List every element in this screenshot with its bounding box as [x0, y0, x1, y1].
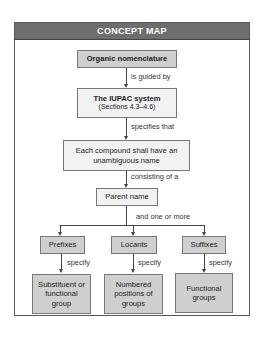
iupac-sections: (Sections 4.3–4.6) — [99, 103, 156, 112]
connector-line — [126, 118, 127, 137]
link-label-specify-suffixes: specify — [209, 258, 232, 267]
connector-line — [126, 171, 127, 185]
arrow-icon — [59, 269, 63, 273]
node-prefixes: Prefixes — [40, 236, 85, 254]
node-locants: Locants — [111, 236, 157, 254]
node-iupac-system: The IUPAC system (Sections 4.3–4.6) — [77, 88, 177, 118]
link-label-consisting: consisting of a — [131, 172, 178, 181]
iupac-title: The IUPAC system — [94, 94, 161, 103]
node-parent-name: Parent name — [96, 188, 158, 206]
node-numbered-positions: Numbered positions of groups — [104, 274, 163, 314]
link-label-guided: is guided by — [131, 72, 170, 81]
node-organic-nomenclature: Organic nomenclature — [77, 50, 177, 68]
node-each-compound: Each compound shall have an unambiguous … — [63, 140, 190, 171]
link-label-and-more: and one or more — [136, 212, 190, 221]
branch-line — [60, 225, 204, 226]
node-substituent: Substituent or functional group — [32, 274, 91, 314]
connector-line — [133, 254, 134, 270]
link-label-specifies: specifies that — [131, 122, 174, 131]
link-label-specify-locants: specify — [138, 258, 161, 267]
connector-line — [126, 206, 127, 226]
arrow-icon — [131, 269, 135, 273]
node-functional-groups: Functional groups — [175, 273, 233, 313]
concept-map-header: CONCEPT MAP — [15, 23, 249, 40]
node-suffixes: Suffixes — [182, 236, 226, 254]
connector-line — [126, 68, 127, 85]
connector-line — [204, 254, 205, 270]
link-label-specify-prefixes: specify — [67, 258, 90, 267]
connector-line — [61, 254, 62, 270]
